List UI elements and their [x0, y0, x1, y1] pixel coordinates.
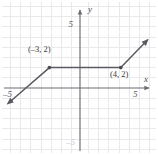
y-tick-label-neg5: –5	[66, 138, 75, 147]
grid-horizontal-lines	[2, 6, 156, 149]
x-tick-label-5: 5	[133, 90, 138, 99]
y-axis-label: y	[88, 5, 92, 14]
x-tick-label-neg5: –5	[3, 90, 12, 99]
coordinate-plane-figure: y x 5 –5 –5 5 (–3, 2) (4, 2)	[0, 0, 158, 155]
plot-canvas	[0, 0, 158, 155]
point-annotation-left: (–3, 2)	[28, 45, 51, 54]
x-axis-label: x	[144, 75, 148, 84]
y-tick-label-5: 5	[69, 20, 74, 29]
point-annotation-right: (4, 2)	[110, 70, 128, 79]
curve-right-ray	[121, 40, 148, 68]
vertex-point-left	[48, 66, 52, 70]
